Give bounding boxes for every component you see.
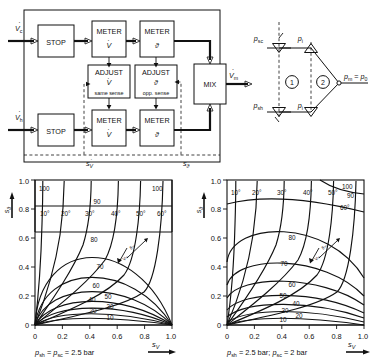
input-label-cold-dot: . (19, 17, 21, 24)
chart-left-xtick-04: 0.4 (85, 332, 95, 341)
block-stop-cold-label: STOP (46, 38, 66, 47)
block-adjust-v-dot: . (108, 73, 110, 80)
chart-right-temp-label-60: 60 (288, 281, 296, 288)
stage-label-1: 1 (290, 79, 294, 86)
chart-left-flow-label-40: 40° (111, 210, 121, 217)
chart-right-temp-label-20: 20 (295, 312, 303, 319)
chart-left-ylabel: sϑ (2, 206, 12, 214)
flow-hot-to-mix (174, 104, 213, 130)
chart-left-temp-label-30: 30 (106, 303, 114, 310)
stage-label-2: 2 (321, 79, 325, 86)
chart-right-xaxis-arrow-label: sV (348, 340, 357, 350)
chart-left-temp-label-90: 90 (93, 198, 101, 205)
chart-left-ytick-06: 0.6 (19, 234, 29, 243)
flow-cold-to-mix (174, 41, 213, 64)
block-meter-theta-cold-label: METER (144, 27, 169, 36)
chart-left-flow-label-20: 20° (61, 210, 71, 217)
chart-right-flow-label-50: 50° (328, 189, 338, 196)
chart-right-ytick-06: 0.6 (211, 234, 221, 243)
pressure-label-p-sh: psh (253, 101, 264, 111)
chart-right-xtick-06: 0.6 (304, 332, 314, 341)
chart-left-temp-label-100b: 100 (152, 185, 163, 192)
chart-right-xtick-10: 1.0 (358, 332, 368, 341)
chart-left: 10° 20° 30° 40° 50° 60° 100 100 90 80 70… (2, 177, 176, 358)
pressure-label-p-i-top: pi (297, 34, 303, 44)
chart-left-xtick-0: 0 (33, 332, 37, 341)
chart-right-temp-label-10: 10 (279, 316, 287, 323)
chart-right-ytick-08: 0.8 (211, 205, 221, 214)
chart-right-ytick-02: 0.2 (211, 292, 221, 301)
block-stop-hot-label: STOP (46, 127, 66, 136)
chart-left-xtick-02: 0.2 (57, 332, 67, 341)
chart-right-flow-label-30: 30° (277, 189, 287, 196)
signal-label-s-v-dot: . (91, 155, 93, 161)
chart-left-xticks (35, 325, 172, 329)
chart-left-ytick-10: 1.0 (19, 177, 29, 186)
chart-right-xticks (227, 325, 364, 329)
chart-left-temp-label-70: 70 (96, 263, 104, 270)
input-arrow-hot (8, 127, 38, 133)
chart-right-xtick-04: 0.4 (277, 332, 287, 341)
block-adjust-theta-note: opp. sense (143, 90, 169, 96)
chart-right-ytick-04: 0.4 (211, 263, 221, 272)
chart-right-temp-label-100: 100 (342, 183, 353, 190)
pressure-dashed-rails (279, 22, 311, 118)
chart-left-flow-label-50: 50° (136, 210, 146, 217)
chart-left-xaxis-arrow-label: sV (152, 340, 161, 350)
chart-left-temp-label-60: 60 (92, 282, 100, 289)
chart-right-flow-label-10: 10° (231, 189, 241, 196)
chart-right-xaxis-arrow (346, 350, 370, 355)
chart-left-flow-label-60: 60° (157, 210, 167, 217)
chart-left-xtick-10: 1.0 (166, 332, 176, 341)
chart-left-ytick-02: 0.2 (19, 292, 29, 301)
chart-left-flow-label-30: 30° (85, 210, 95, 217)
signal-label-s-theta: sϑ (183, 159, 190, 169)
block-adjust-theta-label: ADJUST (142, 68, 171, 77)
output-label-mix-dot: . (232, 64, 234, 71)
chart-left-flow-label-10: 10° (40, 210, 50, 217)
output-label-mix: Vm (229, 71, 238, 81)
input-label-hot-dot: . (19, 106, 21, 113)
flow-cold-1 (74, 38, 92, 44)
chart-left-ytick-04: 0.4 (19, 263, 29, 272)
chart-right-flow-label-60: 60° (340, 204, 350, 211)
block-meter-theta-hot-label: METER (144, 116, 169, 125)
pressure-schematic: 1 2 psc pi psh pi pm = p0 (253, 22, 368, 122)
chart-right-temp-label-80: 80 (288, 234, 296, 241)
output-arrow-mix (226, 81, 252, 87)
pressure-label-p-sc: psc (253, 34, 264, 44)
chart-right-ytick-0: 0 (217, 321, 221, 330)
block-mix-label: MIX (204, 80, 217, 89)
chart-left-temp-label-100a: 100 (39, 185, 50, 192)
chart-right-temp-label-30: 30 (281, 307, 289, 314)
pressure-label-p-m: pm = p0 (343, 72, 368, 82)
flow-hot-1 (74, 127, 92, 133)
chart-right-temp-label-70: 70 (280, 260, 288, 267)
chart-right-xlabel: psh = 2.5 bar; psc = 2 bar (226, 348, 308, 358)
input-arrow-cold (8, 38, 38, 44)
pressure-label-p-i-bottom: pi (297, 101, 303, 111)
chart-right-xtick-0: 0 (225, 332, 229, 341)
block-meter-v-cold-dot: . (108, 35, 110, 42)
chart-left-temp-label-40: 40 (88, 296, 96, 303)
chart-right-ylabel: sϑ (194, 206, 204, 214)
chart-right-flow-label-20: 20° (252, 189, 262, 196)
block-meter-v-hot-dot: . (108, 124, 110, 131)
signal-label-s-v: sV (86, 159, 94, 169)
chart-right-temp-label-90: 90 (347, 192, 355, 199)
chart-left-xlabel: psh = psc = 2.5 bar (34, 348, 95, 358)
chart-right-xtick-02: 0.2 (249, 332, 259, 341)
block-diagram: Vc . Vh . STOP STOP METER V . METER ϑ ME… (8, 10, 252, 169)
chart-left-yticks (31, 180, 35, 325)
flow-cold-2 (126, 38, 140, 44)
figure-svg: Vc . Vh . STOP STOP METER V . METER ϑ ME… (0, 0, 380, 363)
chart-right-xtick-08: 0.8 (331, 332, 341, 341)
block-adjust-v-note: same sense (94, 90, 123, 96)
chart-left-xtick-06: 0.6 (112, 332, 122, 341)
chart-right-ytick-10: 1.0 (211, 177, 221, 186)
chart-left-xtick-08: 0.8 (139, 332, 149, 341)
chart-left-temp-label-50: 50 (104, 293, 112, 300)
chart-left-ytick-0: 0 (25, 321, 29, 330)
chart-left-ytick-08: 0.8 (19, 205, 29, 214)
pressure-output-node (337, 81, 341, 85)
